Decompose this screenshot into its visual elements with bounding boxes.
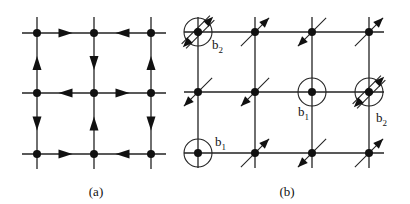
lattice-node: [365, 88, 373, 96]
arrow-right-icon: [59, 29, 73, 38]
lattice-node: [365, 149, 373, 157]
arrow-left-icon: [116, 150, 130, 159]
lattice-node: [33, 29, 41, 37]
arrow-down-icon: [33, 117, 42, 131]
arrow-up-icon: [33, 56, 42, 70]
figure: b2b1b2b1 (a) (b): [0, 0, 410, 204]
lattice-node: [251, 88, 259, 96]
arrowhead-icon: [203, 17, 213, 27]
arrow-down-icon: [90, 56, 99, 70]
defect-label-b1: b1: [298, 104, 309, 122]
lattice-node: [33, 89, 41, 97]
arrow-up-icon: [90, 117, 99, 131]
lattice-node: [147, 29, 155, 37]
lattice-node: [251, 28, 259, 36]
lattice-node: [194, 149, 202, 157]
lattice-node: [251, 149, 259, 157]
lattice-node: [308, 28, 316, 36]
arrow-right-icon: [59, 150, 73, 159]
arrowhead-icon: [183, 37, 193, 47]
caption-b: (b): [279, 184, 294, 199]
defect-label-b2: b2: [212, 37, 223, 55]
panel-b-spin-lattice: b2b1b2b1: [182, 16, 387, 168]
arrow-right-icon: [116, 89, 130, 98]
lattice-node: [365, 28, 373, 36]
arrow-down-icon: [147, 117, 156, 131]
defect-label-b2: b2: [376, 110, 387, 128]
lattice-node: [194, 88, 202, 96]
lattice-diagram: b2b1b2b1 (a) (b): [0, 0, 410, 204]
lattice-node: [90, 29, 98, 37]
lattice-node: [147, 89, 155, 97]
arrow-up-icon: [147, 56, 156, 70]
defect-label-b1: b1: [215, 134, 226, 152]
lattice-node: [147, 150, 155, 158]
panel-a-arrow-lattice: [22, 17, 166, 169]
lattice-node: [33, 150, 41, 158]
arrowhead-icon: [354, 97, 364, 107]
lattice-node: [194, 28, 202, 36]
lattice-node: [308, 88, 316, 96]
lattice-node: [90, 150, 98, 158]
arrow-left-icon: [116, 29, 130, 38]
lattice-node: [90, 89, 98, 97]
arrowhead-icon: [374, 77, 384, 87]
lattice-node: [308, 149, 316, 157]
caption-a: (a): [89, 184, 103, 199]
arrow-left-icon: [59, 89, 73, 98]
